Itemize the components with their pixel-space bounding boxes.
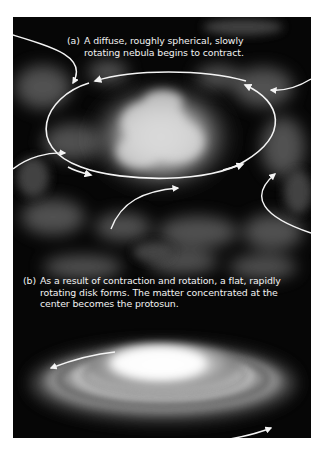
caption-b-line-3: center becomes the protosun. bbox=[40, 298, 311, 310]
caption-a-label: (a) bbox=[67, 35, 80, 47]
caption-b: (b) As a result of contraction and rotat… bbox=[23, 275, 311, 310]
caption-a: (a) A diffuse, roughly spherical, slowly… bbox=[67, 35, 311, 58]
protoplanetary-disk bbox=[31, 343, 295, 421]
caption-b-line-1: As a result of contraction and rotation,… bbox=[40, 275, 311, 287]
disk-arrow-bottom-right bbox=[205, 428, 271, 438]
ellipse-arrow-lower-left bbox=[68, 167, 91, 175]
caption-b-label: (b) bbox=[23, 275, 36, 287]
caption-b-line-2: rotating disk forms. The matter concentr… bbox=[40, 287, 311, 299]
caption-a-line-1: A diffuse, roughly spherical, slowly bbox=[84, 35, 311, 47]
caption-a-line-2: rotating nebula begins to contract. bbox=[84, 47, 311, 59]
figure-illustration bbox=[13, 17, 311, 438]
figure-panel: (a) A diffuse, roughly spherical, slowly… bbox=[13, 17, 311, 438]
